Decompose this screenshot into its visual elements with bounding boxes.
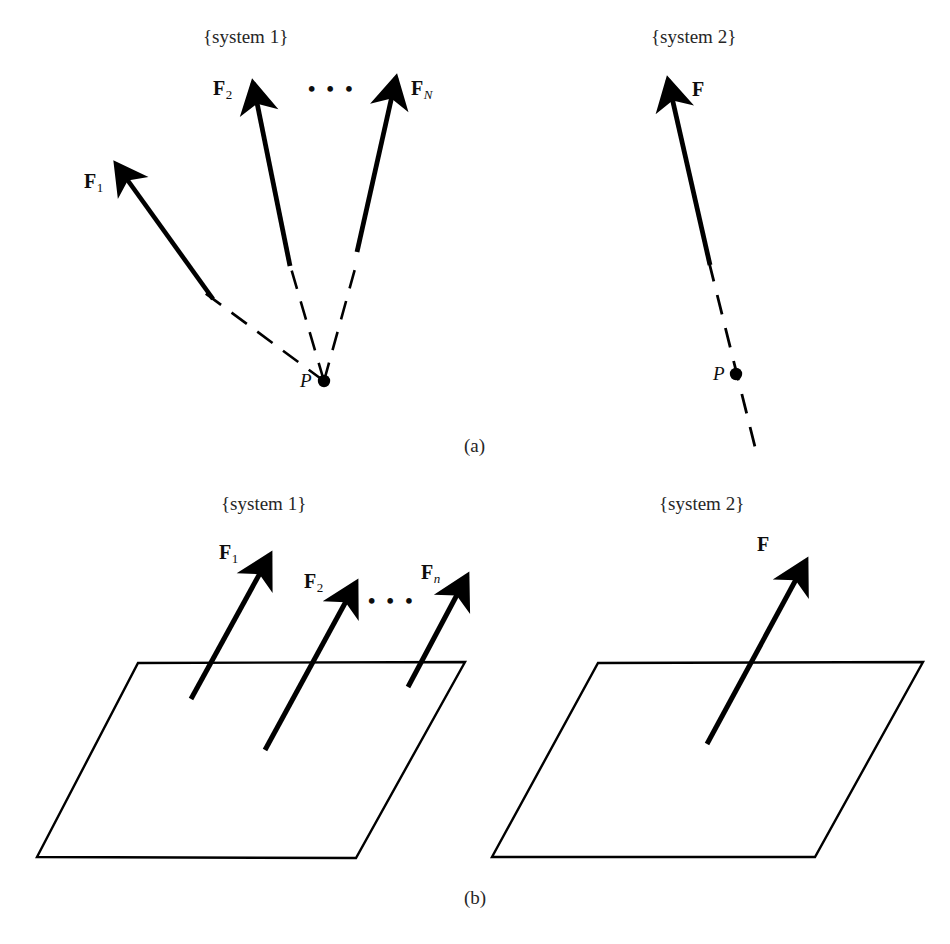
point-label-P-panel-a-system-2: P bbox=[713, 364, 725, 383]
plane-parallelogram-b2 bbox=[492, 662, 923, 857]
force-arrow-b-F1 bbox=[191, 555, 270, 699]
force-label-F1-panel-b: F1 bbox=[219, 542, 238, 562]
force-subscript: 1 bbox=[232, 551, 239, 566]
panel-b-system-2-graphics bbox=[492, 561, 923, 857]
force-line-of-action-F2 bbox=[288, 258, 324, 381]
force-label-F2-panel-a: F2 bbox=[213, 78, 232, 98]
force-arrow-F1 bbox=[116, 164, 213, 299]
point-dot-a2 bbox=[730, 368, 742, 380]
force-symbol: F bbox=[692, 78, 704, 100]
force-symbol: F bbox=[757, 533, 769, 555]
ellipsis-panel-b: • • • bbox=[368, 591, 416, 612]
panel-caption-b: (b) bbox=[464, 888, 486, 907]
force-symbol: F bbox=[411, 77, 423, 99]
force-subscript: N bbox=[424, 87, 433, 102]
force-subscript: 2 bbox=[317, 580, 324, 595]
panel-a-system-2-graphics bbox=[668, 80, 757, 455]
force-line-of-action-F-a2 bbox=[709, 262, 757, 455]
panel-caption-a: (a) bbox=[464, 436, 485, 455]
concurrency-point-dot-a1 bbox=[318, 375, 330, 387]
force-arrow-b-Fn bbox=[408, 576, 467, 687]
system-2-title-panel-b: {system 2} bbox=[659, 494, 744, 513]
system-1-title-panel-b: {system 1} bbox=[221, 494, 306, 513]
panel-a-system-1-graphics bbox=[116, 78, 396, 387]
force-label-F1-panel-a: F1 bbox=[84, 171, 103, 191]
force-line-of-action-F1 bbox=[205, 293, 324, 381]
force-subscript: 1 bbox=[97, 180, 104, 195]
plane-parallelogram-b1 bbox=[37, 662, 465, 858]
figure-root: {system 1} {system 2} F1 F2 FN • • • P P… bbox=[0, 0, 950, 944]
force-label-FN-panel-a: FN bbox=[411, 78, 432, 98]
force-line-of-action-FN bbox=[324, 258, 358, 381]
force-arrow-b-F bbox=[707, 561, 806, 744]
force-label-Fn-panel-b: Fn bbox=[421, 562, 440, 582]
force-symbol: F bbox=[84, 170, 96, 192]
system-1-title-panel-a: {system 1} bbox=[203, 27, 288, 46]
force-symbol: F bbox=[304, 570, 316, 592]
force-arrow-F-a2 bbox=[668, 80, 710, 265]
force-arrow-FN bbox=[357, 78, 396, 252]
force-symbol: F bbox=[219, 541, 231, 563]
force-symbol: F bbox=[213, 77, 225, 99]
force-subscript: 2 bbox=[226, 87, 233, 102]
bottom-edge-cut-text bbox=[0, 936, 950, 944]
force-label-F-panel-b-system-2: F bbox=[757, 534, 769, 554]
ellipsis-panel-a: • • • bbox=[308, 79, 356, 100]
force-arrow-b-F2 bbox=[265, 583, 356, 750]
system-2-title-panel-a: {system 2} bbox=[651, 27, 736, 46]
point-label-P-panel-a-system-1: P bbox=[300, 371, 312, 390]
figure-canvas bbox=[0, 0, 950, 944]
force-label-F2-panel-b: F2 bbox=[304, 571, 323, 591]
force-symbol: F bbox=[421, 561, 433, 583]
force-label-F-panel-a-system-2: F bbox=[692, 79, 704, 99]
force-subscript: n bbox=[434, 571, 441, 586]
force-arrow-F2 bbox=[253, 83, 290, 266]
